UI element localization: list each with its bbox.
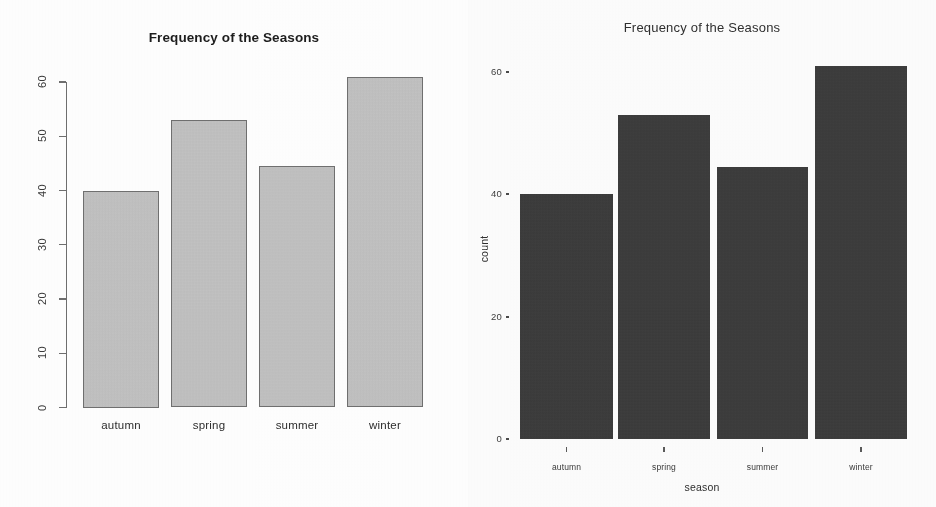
gg-x-tick-mark [860,447,861,452]
base-x-label-spring: spring [159,419,259,431]
gg-bar-spring [618,115,710,439]
base-bar-summer [259,166,335,407]
base-y-tick [59,407,66,408]
base-y-tick-label: 20 [36,285,48,313]
gg-y-tick-label: 0 [472,433,502,444]
base-y-tick [59,298,66,299]
base-y-tick-label: 40 [36,177,48,205]
gg-y-tick-mark [506,438,509,440]
gg-x-tick-mark [663,447,664,452]
base-bar-winter [347,77,423,408]
gg-y-tick-mark [506,71,509,73]
base-r-chart-panel: Frequency of the Seasons 0102030405060 a… [0,0,468,507]
base-y-tick-label: 60 [36,68,48,96]
gg-y-axis-title: count [478,219,490,279]
gg-x-axis-title: season [468,481,936,493]
gg-y-tick-label: 20 [472,311,502,322]
base-y-axis-line [66,82,67,408]
gg-bar-autumn [520,194,613,439]
gg-y-tick-mark [506,316,509,318]
base-y-tick-label: 0 [36,394,48,422]
gg-bar-winter [815,66,907,439]
base-y-tick-label: 30 [36,231,48,259]
gg-x-label-spring: spring [619,462,709,472]
gg-y-tick-mark [506,193,509,195]
gg-x-label-autumn: autumn [522,462,612,472]
base-y-tick [59,190,66,191]
base-y-tick [59,353,66,354]
base-y-tick-label: 50 [36,122,48,150]
base-y-tick [59,244,66,245]
base-bar-spring [171,120,247,408]
base-chart-plot-area: 0102030405060 autumnspringsummerwinter [0,0,468,507]
base-bar-autumn [83,191,159,408]
gg-x-tick-mark [762,447,763,452]
base-y-tick [59,81,66,82]
gg-chart-plot-area: 0204060 autumnspringsummerwinter season … [468,0,936,507]
base-y-tick-label: 10 [36,339,48,367]
gg-x-tick-mark [566,447,567,452]
gg-x-label-summer: summer [718,462,808,472]
base-y-tick [59,136,66,137]
gg-bar-summer [717,167,808,439]
base-x-label-summer: summer [247,419,347,431]
gg-x-label-winter: winter [816,462,906,472]
base-x-label-autumn: autumn [71,419,171,431]
base-x-label-winter: winter [335,419,435,431]
figure-canvas: Frequency of the Seasons 0102030405060 a… [0,0,936,507]
gg-y-tick-label: 60 [472,66,502,77]
gg-y-tick-label: 40 [472,188,502,199]
